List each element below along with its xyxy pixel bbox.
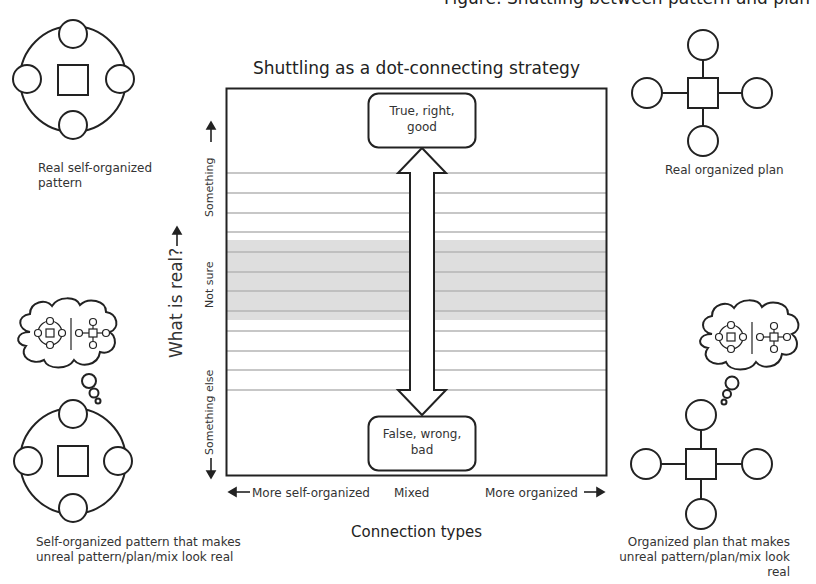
caption-real-organized-plan: Real organized plan — [665, 163, 784, 178]
self-organized-pattern-icon — [14, 400, 132, 522]
caption-organized-plan-unreal: Organized plan that makes unreal pattern… — [600, 535, 790, 580]
arrow-up-icon — [207, 122, 215, 129]
y-band-something-else: Something else — [203, 370, 216, 455]
false-wrong-bad-line2: bad — [368, 442, 476, 458]
caption-line: unreal pattern/plan/mix look real — [36, 550, 241, 565]
caption-real-self-organized: Real self-organized pattern — [38, 161, 152, 191]
y-band-not-sure: Not sure — [203, 261, 216, 308]
cropped-top-text: Figure: Shuttling between pattern and pl… — [330, 0, 810, 8]
thought-cloud-icon — [700, 300, 798, 404]
true-right-good-label: True, right, good — [368, 103, 476, 135]
organized-plan-icon — [632, 30, 772, 156]
x-axis-title: Connection types — [226, 523, 607, 541]
y-band-something: Something — [203, 158, 216, 218]
caption-self-organized-pattern-unreal: Self-organized pattern that makes unreal… — [36, 535, 241, 565]
self-organized-pattern-icon — [13, 20, 134, 139]
y-axis-title: What is real? — [166, 248, 186, 358]
x-label-more-self-organized: More self-organized — [252, 486, 370, 500]
x-label-more-organized: More organized — [485, 486, 578, 500]
caption-line: pattern — [38, 176, 152, 191]
caption-line: unreal pattern/plan/mix look real — [600, 550, 790, 580]
arrow-right-icon — [597, 488, 604, 496]
thought-cloud-icon — [18, 298, 116, 403]
organized-plan-icon — [631, 400, 772, 529]
caption-line: Self-organized pattern that makes — [36, 535, 241, 550]
false-wrong-bad-label: False, wrong, bad — [368, 426, 476, 458]
arrow-left-icon — [229, 488, 236, 496]
caption-line: Real self-organized — [38, 161, 152, 176]
arrow-down-icon — [207, 471, 215, 478]
true-right-good-line1: True, right, — [368, 103, 476, 119]
x-label-mixed: Mixed — [394, 486, 429, 500]
arrow-up-icon — [173, 227, 181, 234]
false-wrong-bad-line1: False, wrong, — [368, 426, 476, 442]
true-right-good-line2: good — [368, 119, 476, 135]
caption-line: Organized plan that makes — [600, 535, 790, 550]
chart-title: Shuttling as a dot-connecting strategy — [226, 58, 607, 78]
